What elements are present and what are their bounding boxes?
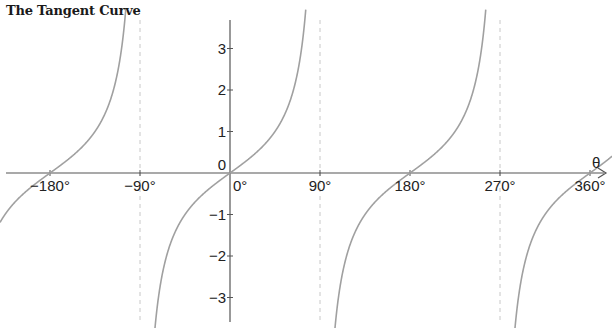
x-tick-label: 360°	[574, 177, 605, 194]
y-tick-label: 2	[218, 81, 226, 98]
x-tick-label: 0°	[233, 177, 247, 194]
x-axis-label: θ	[592, 154, 600, 171]
x-tick-label: −90°	[124, 177, 155, 194]
axes	[6, 20, 606, 322]
tangent-plot: −180°−90°0°90°180°270°360°−3−2−10123θ	[0, 0, 612, 328]
x-tick-label: −180°	[30, 177, 70, 194]
y-tick-label: −1	[209, 206, 226, 223]
y-tick-label: −3	[209, 289, 226, 306]
x-tick-label: 270°	[484, 177, 515, 194]
x-tick-label: 180°	[394, 177, 425, 194]
x-tick-label: 90°	[309, 177, 332, 194]
tangent-curves	[0, 10, 612, 328]
tangent-branch	[335, 10, 486, 328]
y-tick-label: 3	[218, 40, 226, 57]
y-tick-label: −2	[209, 247, 226, 264]
y-tick-label: 1	[218, 123, 226, 140]
y-tick-label: 0	[218, 156, 226, 173]
